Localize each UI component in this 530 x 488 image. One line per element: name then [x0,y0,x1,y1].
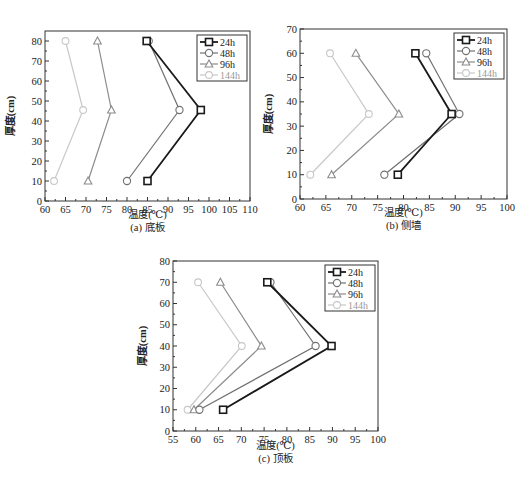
y-tick-label: 0 [165,426,170,437]
x-tick-label: 85 [304,434,315,445]
square-marker [328,343,335,350]
y-tick-label: 30 [160,362,171,373]
y-tick-label: 80 [160,256,171,267]
diamond-marker [334,302,341,309]
circle-marker [312,342,319,349]
circle-marker [196,406,203,413]
y-tick-label: 20 [160,383,171,394]
series-144h [184,279,245,413]
chart-c-top-slab: 55606570758085909510001020304050607080温度… [0,0,530,488]
diamond-marker [195,279,202,286]
y-tick-label: 70 [160,277,171,288]
legend-label-96h: 96h [348,289,363,300]
legend: 24h48h96h144h [325,265,375,311]
triangle-marker [258,342,266,349]
square-marker [220,406,227,413]
legend-label-48h: 48h [348,278,363,289]
y-tick-label: 40 [160,341,171,352]
x-tick-label: 90 [327,434,338,445]
y-tick-label: 60 [160,298,171,309]
square-marker [334,269,341,276]
triangle-marker [217,278,225,285]
circle-marker [333,279,340,286]
legend-label-24h: 24h [348,267,363,278]
y-axis-label: 厚度(cm) [136,325,149,366]
legend-label-144h: 144h [348,300,368,311]
series-48h [196,279,319,414]
x-tick-label: 65 [213,434,224,445]
x-tick-label: 95 [350,434,361,445]
x-axis-label: 温度(℃) [256,439,295,452]
y-tick-label: 50 [160,319,171,330]
x-tick-label: 60 [191,434,202,445]
y-tick-label: 10 [160,404,171,415]
square-marker [264,279,271,286]
chart-title: (c) 顶板 [258,452,293,465]
diamond-marker [238,343,245,350]
x-tick-label: 70 [236,434,247,445]
x-tick-label: 100 [370,434,386,445]
